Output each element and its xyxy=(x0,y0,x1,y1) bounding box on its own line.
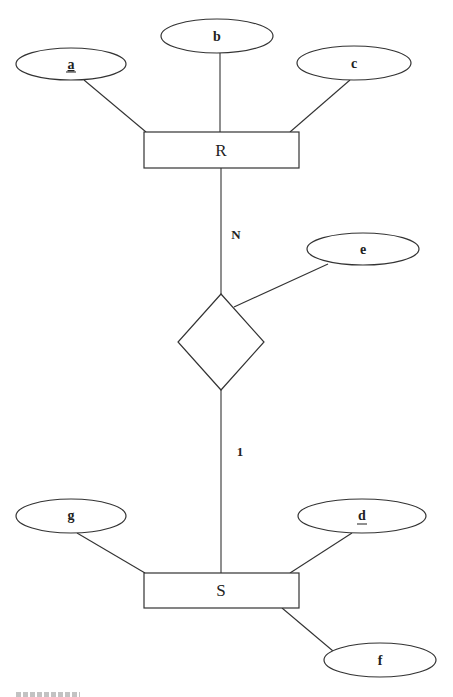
attribute-b: b xyxy=(161,19,273,53)
entity-S-label: S xyxy=(216,581,225,600)
edge-c-R xyxy=(290,80,350,132)
entity-R: R xyxy=(144,132,299,168)
edge-d-S xyxy=(290,533,352,573)
attribute-f-label: f xyxy=(378,653,383,668)
attribute-e-label: e xyxy=(360,242,366,257)
relationship-diamond xyxy=(178,294,264,390)
attribute-e: e xyxy=(307,233,419,265)
edge-a-R xyxy=(84,80,146,132)
attribute-b-label: b xyxy=(213,29,221,44)
edge-S-f xyxy=(282,608,333,651)
figure-caption-cropped xyxy=(16,692,80,697)
attribute-d-label: d xyxy=(358,508,366,523)
cardinality-1: 1 xyxy=(237,444,244,459)
entity-R-label: R xyxy=(215,141,227,160)
attribute-a: a xyxy=(16,48,126,80)
er-diagram: a b c e g d f R S N 1 xyxy=(0,0,453,697)
attribute-c-label: c xyxy=(351,56,357,71)
cardinality-N: N xyxy=(231,227,241,242)
attribute-g-label: g xyxy=(68,508,75,523)
attribute-d: d xyxy=(298,499,426,533)
attribute-c: c xyxy=(297,46,411,80)
attribute-g: g xyxy=(16,499,126,533)
edge-e-relationship xyxy=(234,264,328,307)
attribute-a-label: a xyxy=(68,57,75,72)
edge-g-S xyxy=(77,533,145,573)
entity-S: S xyxy=(144,573,299,608)
attribute-f: f xyxy=(324,643,436,677)
